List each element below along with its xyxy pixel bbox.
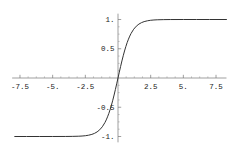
plot-figure: -7.5-5.-2.52.55.7.5 -1.-0.50.51. (0, 0, 233, 149)
y-tick-label: 0.5 (101, 45, 115, 53)
axes (12, 14, 226, 143)
x-tick-label: 5. (179, 83, 188, 91)
x-tick-label: 7.5 (209, 83, 223, 91)
y-tick-label: -0.5 (96, 104, 115, 112)
x-tick-label: 2.5 (144, 83, 158, 91)
y-tick-label: 1. (105, 16, 114, 24)
y-tick-label: -1. (101, 133, 115, 141)
x-tick-label: -5. (46, 83, 60, 91)
y-tick-labels: -1.-0.50.51. (96, 16, 115, 141)
x-tick-label: -7.5 (11, 83, 30, 91)
x-tick-label: -2.5 (76, 83, 95, 91)
line-plot-svg: -7.5-5.-2.52.55.7.5 -1.-0.50.51. (0, 0, 233, 149)
